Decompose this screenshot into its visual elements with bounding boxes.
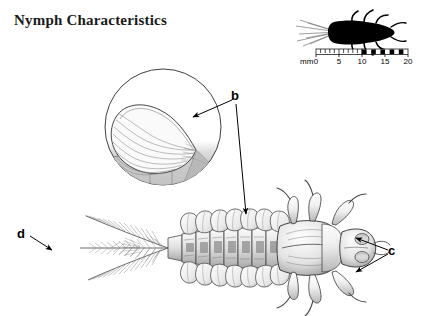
illustration-canvas: [0, 0, 425, 316]
scale-tick-10: 10: [354, 58, 370, 66]
callout-label-c: c: [388, 244, 395, 257]
gill-magnification-inset: [105, 69, 232, 190]
callout-b-arrow-abdomen: [236, 104, 246, 214]
silhouette-figure: [296, 10, 406, 55]
abdomen: [168, 228, 280, 268]
figure-page: Nymph Characteristics: [0, 0, 425, 316]
callout-d-arrow: [30, 236, 52, 250]
callout-label-b: b: [231, 89, 239, 102]
scale-bar: [316, 49, 408, 57]
thorax-wingpads: [277, 221, 343, 276]
caudal-filaments: [80, 215, 168, 280]
scale-tick-0: 0: [308, 58, 324, 66]
callout-label-d: d: [17, 227, 25, 240]
scale-tick-5: 5: [331, 58, 347, 66]
scale-tick-15: 15: [377, 58, 393, 66]
scale-tick-20: 20: [400, 58, 416, 66]
